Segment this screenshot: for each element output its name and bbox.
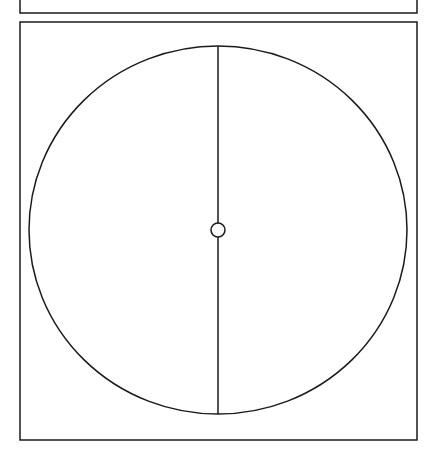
diagram-canvas bbox=[0, 0, 439, 455]
top-frame bbox=[20, 0, 417, 13]
center-hub-circle bbox=[211, 223, 225, 237]
